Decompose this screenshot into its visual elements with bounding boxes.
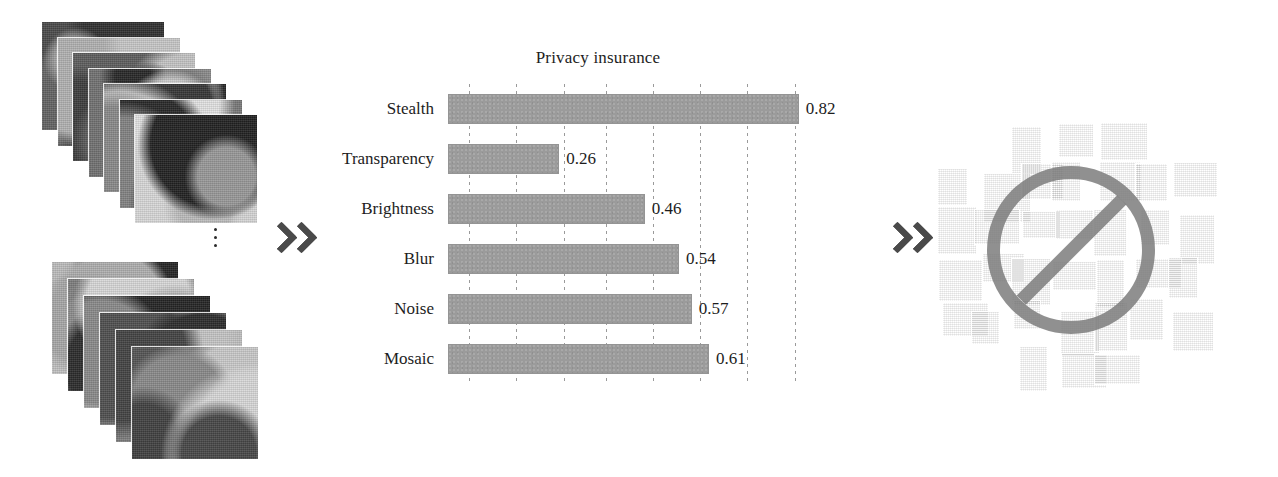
collage-photo xyxy=(1174,163,1217,197)
chart-bar: 0.61 xyxy=(448,344,709,374)
output-image-collage xyxy=(938,122,1220,398)
collage-photo xyxy=(1169,258,1197,298)
collage-photo xyxy=(939,260,982,301)
chart-bar-value: 0.46 xyxy=(652,199,682,219)
collage-photo xyxy=(1020,347,1047,391)
chart-bar: 0.54 xyxy=(448,244,679,274)
chart-bar-value: 0.61 xyxy=(716,349,746,369)
collage-photo xyxy=(1101,123,1147,160)
chart-bar-value: 0.82 xyxy=(806,99,836,119)
chart-bar-row: Transparency0.26 xyxy=(448,134,833,184)
chart-bar: 0.46 xyxy=(448,194,645,224)
collage-photo xyxy=(1130,299,1163,340)
input-image-stack-top xyxy=(42,22,262,232)
chart-bar-row: Noise0.57 xyxy=(448,284,833,334)
collage-photo xyxy=(1059,124,1093,157)
chevron-right-icon xyxy=(904,222,924,256)
chart-category-label: Transparency xyxy=(342,149,434,169)
chart-category-label: Mosaic xyxy=(384,349,434,369)
prohibition-sign-icon xyxy=(987,166,1155,334)
figure-root: Privacy insurance Stealth0.82Transparenc… xyxy=(0,0,1278,477)
privacy-insurance-chart: Privacy insurance Stealth0.82Transparenc… xyxy=(318,48,878,393)
collage-photo xyxy=(938,169,967,205)
chart-bar: 0.82 xyxy=(448,94,799,124)
chevron-right-icon xyxy=(268,222,288,256)
collage-photo xyxy=(1180,215,1214,264)
collage-photo xyxy=(972,312,999,344)
chart-bar: 0.26 xyxy=(448,144,559,174)
stacked-photo xyxy=(132,347,258,459)
input-image-stack-bottom xyxy=(52,262,272,472)
chevron-right-icon xyxy=(288,222,308,256)
chart-bar-row: Stealth0.82 xyxy=(448,84,833,134)
chevron-right-icon xyxy=(884,222,904,256)
ellipsis-dots xyxy=(212,228,218,247)
chart-bar-value: 0.57 xyxy=(699,299,729,319)
collage-photo xyxy=(1173,312,1213,351)
arrow-input-to-chart xyxy=(268,222,308,256)
collage-photo xyxy=(1136,164,1167,201)
chart-category-label: Brightness xyxy=(361,199,434,219)
chart-bar-row: Mosaic0.61 xyxy=(448,334,833,384)
collage-photo xyxy=(1095,355,1140,384)
chart-title: Privacy insurance xyxy=(318,48,878,68)
chart-category-label: Blur xyxy=(404,249,434,269)
chart-bar-value: 0.26 xyxy=(566,149,596,169)
chart-category-label: Stealth xyxy=(387,99,434,119)
prohibition-slash xyxy=(1016,195,1126,305)
chart-bar-value: 0.54 xyxy=(686,249,716,269)
chart-bar: 0.57 xyxy=(448,294,692,324)
arrow-chart-to-output xyxy=(884,222,924,256)
chart-bar-row: Blur0.54 xyxy=(448,234,833,284)
chart-category-label: Noise xyxy=(394,299,434,319)
collage-photo xyxy=(938,207,976,254)
chart-bar-row: Brightness0.46 xyxy=(448,184,833,234)
chart-plot-area: Stealth0.82Transparency0.26Brightness0.4… xyxy=(448,84,833,384)
stacked-photo xyxy=(135,115,257,223)
